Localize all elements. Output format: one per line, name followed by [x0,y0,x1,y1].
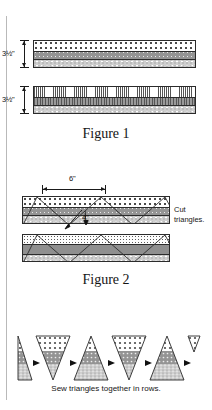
figure1-strip-2-seam-2 [34,105,195,106]
figure1-strip-1-band-dots-large [34,41,195,51]
figure1-strip-1-band-grey-dot [34,51,195,59]
figure1-strip-1-seam-2 [34,59,195,60]
figure1-strip-2-band-stripe-grey [34,97,195,105]
instruction-sheet: 3½" 3½" Figure 1 6" [0,0,212,410]
figure1-strip-1-seam-1 [34,51,195,52]
figure1-dimension-label-1: 3½" [2,49,15,58]
figure-2-group: 6" 4" [0,172,212,300]
figure2-inner-label: 4" [82,213,88,222]
figure1-dimension-arrow-2 [20,86,29,114]
figure1-dimension-arrow-1 [20,40,29,68]
figure-3-group: Sew triangles together in rows. [0,336,212,402]
figure-1-group: 3½" 3½" Figure 1 [0,28,212,156]
seam-arrow-4 [145,360,152,366]
figure-1-caption: Figure 1 [0,126,212,142]
figure-3-caption: Sew triangles together in rows. [0,384,212,393]
seam-arrow-3 [108,360,115,366]
seam-arrow-5 [184,360,191,366]
figure2-strip-2-cut-lines [23,235,170,262]
figure1-strip-1 [33,40,196,68]
triangle-row [18,336,200,380]
figure1-strip-1-band-speckle [34,59,195,68]
seam-arrow-2 [70,360,77,366]
seam-arrow-1 [33,360,40,366]
figure2-cut-note: Cut triangles. [174,205,210,225]
figure1-dimension-label-2: 3½" [2,95,15,104]
figure2-strip-2 [22,234,170,262]
figure1-strip-2-seam-1 [34,97,195,98]
figure1-strip-2-band-speckle [34,105,195,114]
figure2-width-arrow [42,185,106,194]
figure1-strip-2-band-stripe-light [34,87,195,97]
figure2-width-label: 6" [69,174,75,183]
figure1-strip-2 [33,86,196,114]
figure-2-caption: Figure 2 [0,272,212,288]
